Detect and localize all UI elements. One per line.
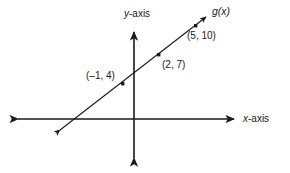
point-label-2-7: (2, 7)	[162, 59, 185, 70]
coordinate-plane-svg	[0, 0, 290, 173]
data-point-marker	[194, 24, 197, 27]
data-point-marker	[157, 53, 160, 56]
function-line-g	[60, 17, 206, 130]
point-label-neg1-4: (–1, 4)	[86, 70, 115, 81]
y-axis-label: y-axis	[124, 8, 150, 19]
y-axis-label-suffix: -axis	[129, 8, 150, 19]
function-label-gx: g(x)	[212, 6, 230, 17]
graph-figure: y-axis x-axis g(x) (5, 10) (2, 7) (–1, 4…	[0, 0, 290, 173]
point-label-5-10: (5, 10)	[187, 30, 216, 41]
data-point-marker	[121, 82, 124, 85]
x-axis-label: x-axis	[243, 113, 269, 124]
x-axis-label-suffix: -axis	[248, 113, 269, 124]
